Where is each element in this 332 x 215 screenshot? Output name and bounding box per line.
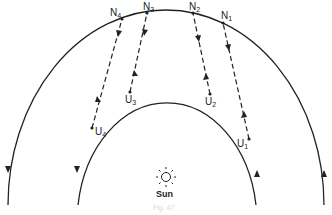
sightline-u2-n2 [193, 13, 210, 94]
arrow-up-u3 [132, 70, 138, 76]
inner-orbit-arrow-left [74, 166, 80, 173]
arrow-down-n4 [116, 30, 122, 37]
label-n2: N2 [189, 2, 200, 13]
orbit-diagram [0, 0, 332, 215]
inner-orbit-arrow-right [254, 170, 260, 177]
label-n3: N3 [143, 2, 154, 13]
sun-icon [156, 167, 176, 187]
arrow-down-n2 [195, 35, 201, 42]
figure-caption: Fig. 47 [153, 204, 174, 211]
arrow-up-u1 [241, 111, 247, 118]
label-u2: U2 [205, 97, 216, 108]
label-n1: N1 [221, 11, 232, 22]
sightline-u3-n3 [130, 13, 147, 92]
outer-orbit [8, 10, 324, 205]
label-u4: U4 [95, 127, 106, 138]
point-u4 [90, 126, 93, 129]
sun-label: Sun [156, 189, 173, 199]
arrow-down-n1 [225, 44, 231, 51]
sightline-u1-n1 [223, 23, 249, 139]
label-u3: U3 [125, 95, 136, 106]
arrow-up-u2 [203, 73, 209, 80]
sightline-u4-n4 [92, 19, 122, 128]
label-n4: N4 [110, 8, 121, 19]
label-u1: U1 [237, 139, 248, 150]
